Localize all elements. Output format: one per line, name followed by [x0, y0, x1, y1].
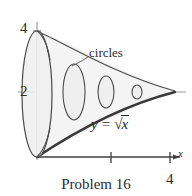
- problem-figure: 4 2 4 x circles y=√x Problem 16: [0, 0, 192, 196]
- y-axis-label-4: 4: [20, 21, 28, 36]
- cross-section-ellipse-3: [98, 76, 114, 108]
- equation-variable-y: y: [91, 116, 98, 132]
- equation-equals-sign: =: [98, 116, 114, 132]
- figure-caption: Problem 16: [0, 176, 192, 193]
- x-axis-name-label: x: [178, 148, 183, 159]
- equation-radicand-x: x: [121, 115, 129, 132]
- curve-equation-annotation: y=√x: [91, 117, 129, 132]
- circles-annotation: circles: [89, 46, 123, 59]
- y-axis-label-2: 2: [20, 84, 28, 99]
- solid-of-revolution-diagram: [0, 0, 192, 196]
- cross-section-ellipse-4: [132, 85, 142, 99]
- cross-section-ellipse-2: [63, 64, 85, 120]
